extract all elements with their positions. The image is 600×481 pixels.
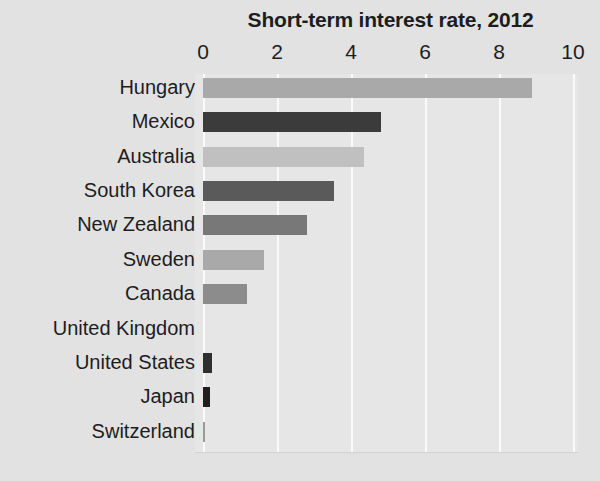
axis-baseline — [195, 452, 578, 453]
bar-new-zealand — [203, 215, 307, 235]
category-label-sweden: Sweden — [123, 247, 195, 271]
bar-row: Japan — [0, 383, 600, 417]
bar-australia — [203, 147, 364, 167]
category-label-united-states: United States — [75, 350, 195, 374]
x-tick-label-10: 10 — [553, 40, 593, 64]
bar-row: United States — [0, 349, 600, 383]
category-label-canada: Canada — [125, 281, 195, 305]
bar-canada — [203, 284, 247, 304]
category-label-australia: Australia — [117, 144, 195, 168]
x-tick-label-6: 6 — [405, 40, 445, 64]
category-label-mexico: Mexico — [132, 109, 195, 133]
x-axis-tick-labels: 0246810 — [0, 40, 600, 70]
chart-title: Short-term interest rate, 2012 — [203, 8, 578, 32]
bar-row: South Korea — [0, 177, 600, 211]
bar-chart: Short-term interest rate, 2012 0246810 H… — [0, 0, 600, 481]
category-label-japan: Japan — [141, 384, 196, 408]
category-label-hungary: Hungary — [119, 75, 195, 99]
category-label-switzerland: Switzerland — [92, 419, 195, 443]
bar-row: Sweden — [0, 246, 600, 280]
bar-rows: HungaryMexicoAustraliaSouth KoreaNew Zea… — [0, 74, 600, 452]
bar-sweden — [203, 250, 264, 270]
bar-row: United Kingdom — [0, 315, 600, 349]
bar-south-korea — [203, 181, 334, 201]
bar-row: Canada — [0, 280, 600, 314]
category-label-new-zealand: New Zealand — [77, 212, 195, 236]
bar-row: New Zealand — [0, 211, 600, 245]
x-tick-label-8: 8 — [479, 40, 519, 64]
bar-switzerland — [203, 422, 205, 442]
bar-japan — [203, 387, 210, 407]
category-label-united-kingdom: United Kingdom — [53, 316, 195, 340]
bar-row: Hungary — [0, 74, 600, 108]
x-tick-label-0: 0 — [183, 40, 223, 64]
bar-row: Australia — [0, 143, 600, 177]
x-tick-label-2: 2 — [257, 40, 297, 64]
bar-row: Mexico — [0, 108, 600, 142]
bar-united-states — [203, 353, 212, 373]
x-tick-label-4: 4 — [331, 40, 371, 64]
category-label-south-korea: South Korea — [84, 178, 195, 202]
bar-row: Switzerland — [0, 418, 600, 452]
bar-hungary — [203, 78, 532, 98]
bar-mexico — [203, 112, 381, 132]
